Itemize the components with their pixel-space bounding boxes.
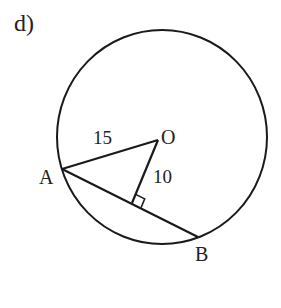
label-10: 10 bbox=[153, 166, 172, 187]
label-O: O bbox=[161, 126, 175, 148]
label-15: 15 bbox=[93, 127, 112, 148]
part-label: d) bbox=[14, 10, 34, 36]
label-B: B bbox=[195, 243, 208, 265]
label-A: A bbox=[39, 166, 54, 188]
circle-chord-diagram: d) O A B 15 10 bbox=[0, 0, 281, 308]
chord-AB bbox=[62, 169, 198, 237]
